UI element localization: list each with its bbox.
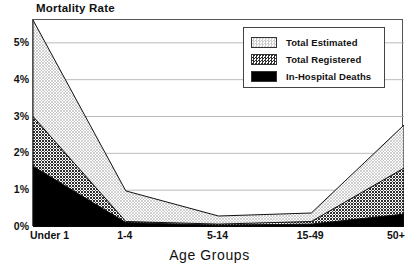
y-tick-label: 4% (14, 73, 29, 85)
x-tick-label: 15-49 (297, 229, 324, 241)
y-tick-label: 1% (14, 183, 29, 195)
y-tick-label: 3% (14, 110, 29, 122)
y-axis-title: Mortality Rate (36, 2, 115, 14)
legend-item: Total Registered (251, 51, 377, 67)
legend-item: In-Hospital Deaths (251, 68, 377, 84)
legend-swatch-in-hospital-deaths (251, 71, 277, 82)
y-tick-label: 5% (14, 36, 29, 48)
x-axis-title: Age Groups (0, 247, 419, 263)
legend-item: Total Estimated (251, 34, 377, 50)
chart-figure: Mortality Rate 0%1%2%3%4%5% (0, 0, 419, 272)
x-tick-label: 1-4 (117, 229, 132, 241)
legend-label: Total Estimated (286, 37, 358, 48)
chart-legend: Total Estimated Total Registered In-Hosp… (243, 27, 385, 88)
y-tick-label: 2% (14, 146, 29, 158)
legend-label: In-Hospital Deaths (286, 71, 371, 82)
legend-swatch-total-registered (251, 54, 277, 65)
x-axis-tick-labels: Under 11-45-1415-4950+ (0, 229, 419, 245)
legend-swatch-total-estimated (251, 37, 277, 48)
legend-label: Total Registered (286, 54, 361, 65)
x-tick-label: Under 1 (30, 229, 69, 241)
x-tick-label: 5-14 (207, 229, 228, 241)
x-tick-label: 50+ (387, 229, 405, 241)
